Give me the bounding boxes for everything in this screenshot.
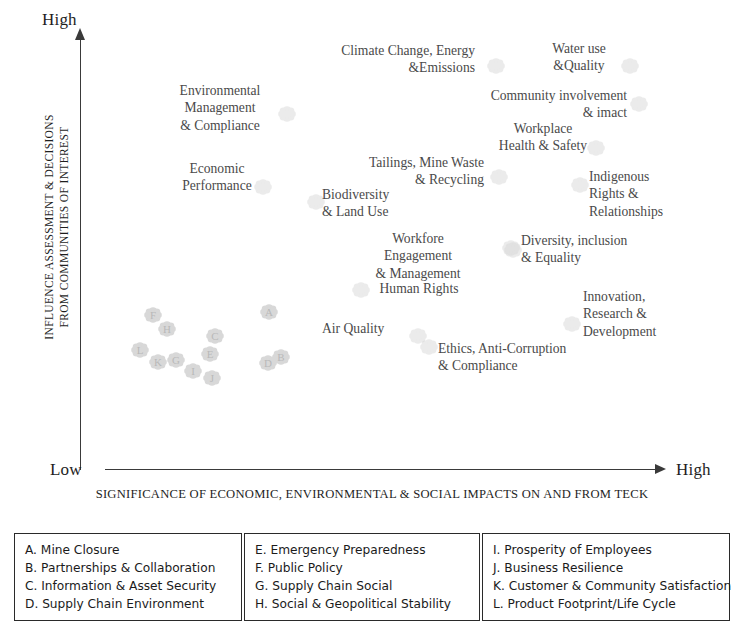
lettered-marker: L [130, 341, 150, 359]
topic-label: Ethics, Anti-Corruption & Compliance [438, 340, 588, 375]
legend-item: I. Prosperity of Employees [493, 541, 720, 559]
y-axis-title-line-1: INFLUENCE ASSESSMENT & DECISIONS [42, 82, 57, 372]
lettered-marker-glyph: E [200, 345, 220, 363]
lettered-marker-glyph: B [271, 348, 291, 366]
scatter-marker [486, 57, 506, 75]
legend-item: L. Product Footprint/Life Cycle [493, 595, 720, 613]
lettered-marker-glyph: A [259, 303, 279, 321]
legend-item: E. Emergency Preparedness [255, 541, 470, 559]
topic-label: Human Rights [373, 280, 465, 297]
legend-item: C. Information & Asset Security [25, 577, 232, 595]
scatter-marker [277, 105, 297, 123]
topic-label: Climate Change, Energy &Emissions [325, 42, 475, 77]
lettered-marker-glyph: K [148, 353, 168, 371]
lettered-marker-glyph: C [205, 327, 225, 345]
scatter-marker [501, 239, 521, 257]
x-axis-title: SIGNIFICANCE OF ECONOMIC, ENVIRONMENTAL … [0, 487, 744, 502]
topic-label: Biodiversity & Land Use [322, 186, 412, 221]
lettered-marker: H [157, 320, 177, 338]
y-axis-line [80, 38, 81, 470]
lettered-marker: I [183, 362, 203, 380]
x-axis-low-label: Low [50, 460, 82, 480]
topic-label: Tailings, Mine Waste & Recycling [344, 154, 484, 189]
x-axis-arrow-icon [655, 464, 666, 474]
plot-area: High Low High INFLUENCE ASSESSMENT & DEC… [0, 0, 744, 500]
legend-item: J. Business Resilience [493, 559, 720, 577]
lettered-marker: K [148, 353, 168, 371]
scatter-marker [489, 168, 509, 186]
scatter-marker [562, 315, 582, 333]
legend-item: D. Supply Chain Environment [25, 595, 232, 613]
legend-item: H. Social & Geopolitical Stability [255, 595, 470, 613]
scatter-marker [408, 327, 428, 345]
legend-column-3: I. Prosperity of EmployeesJ. Business Re… [482, 533, 730, 621]
lettered-marker: E [200, 345, 220, 363]
scatter-marker [419, 338, 439, 356]
scatter-marker [570, 176, 590, 194]
lettered-marker: J [202, 369, 222, 387]
topic-label: Environmental Management & Compliance [165, 82, 275, 134]
scatter-marker [629, 95, 649, 113]
topic-label: Water use &Quality [533, 40, 625, 75]
scatter-marker [351, 281, 371, 299]
legend-item: G. Supply Chain Social [255, 577, 470, 595]
y-axis-high-label: High [42, 10, 77, 30]
lettered-marker-glyph: I [183, 362, 203, 380]
y-axis-title: INFLUENCE ASSESSMENT & DECISIONS FROM CO… [42, 82, 72, 372]
lettered-marker-glyph: H [157, 320, 177, 338]
lettered-marker-glyph: J [202, 369, 222, 387]
topic-label: Air Quality [322, 320, 392, 337]
topic-label: Community involvement & imact [455, 87, 627, 122]
topic-label: Diversity, inclusion & Equality [521, 232, 631, 267]
legend-column-1: A. Mine ClosureB. Partnerships & Collabo… [14, 533, 242, 621]
lettered-marker: C [205, 327, 225, 345]
topic-label: Economic Performance [172, 160, 262, 195]
legend-item: B. Partnerships & Collaboration [25, 559, 232, 577]
lettered-marker: A [259, 303, 279, 321]
materiality-matrix-page: High Low High INFLUENCE ASSESSMENT & DEC… [0, 0, 744, 640]
legend-column-2: E. Emergency PreparednessF. Public Polic… [244, 533, 480, 621]
topic-label: Workplace Health & Safety [494, 120, 592, 155]
legend-item: F. Public Policy [255, 559, 470, 577]
legend-item: K. Customer & Community Satisfaction [493, 577, 720, 595]
legend: A. Mine ClosureB. Partnerships & Collabo… [14, 533, 730, 621]
legend-item: A. Mine Closure [25, 541, 232, 559]
topic-label: Indigenous Rights & Relationships [589, 168, 681, 220]
topic-label: Workfore Engagement & Management [368, 230, 468, 282]
lettered-marker-glyph: L [130, 341, 150, 359]
x-axis-high-label: High [676, 460, 711, 480]
topic-label: Innovation, Research & Development [583, 288, 678, 340]
y-axis-title-line-2: FROM COMMUNITIES OF INTEREST [57, 82, 72, 372]
x-axis-line [105, 469, 658, 470]
scatter-marker [503, 241, 523, 259]
lettered-marker: B [271, 348, 291, 366]
